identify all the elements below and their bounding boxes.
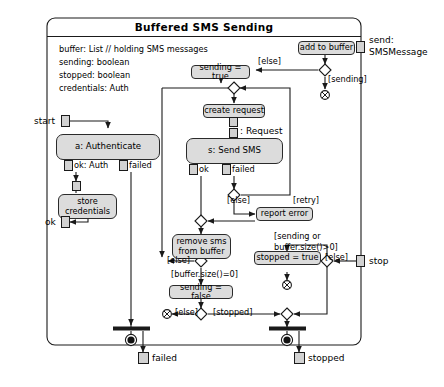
merge-stopped-path [281,308,293,320]
action-sending-true[interactable]: sending = true [191,65,250,79]
pin-create-request-out[interactable] [229,117,238,127]
pin-sendsms-failed[interactable] [222,164,231,175]
label-request: : Request [240,126,282,136]
action-add-to-buffer[interactable]: add to buffer [298,41,355,55]
activity-final-group [125,334,292,345]
pin-authenticate-failed[interactable] [119,160,128,171]
attribute-buffer: buffer: List // holding SMS messages [59,45,208,54]
label-ok-auth: ok: Auth [74,161,108,170]
guard-retry: [retry] [293,196,319,205]
action-authenticate[interactable]: a: Authenticate [56,134,160,160]
guard-stopped: [stopped] [213,308,253,317]
pin-send[interactable] [356,41,365,53]
pin-authenticate-ok[interactable] [64,160,73,171]
label-failed-auth: failed [129,161,152,170]
guard-else-loop: [else] [167,256,190,265]
pin-stopped-out[interactable] [294,352,305,364]
guard-else-final: [else] [175,308,198,317]
pin-label-send-line2: SMSMessage [369,47,428,57]
label-ok-send: ok [199,165,209,174]
merge-loop-entry [228,82,240,94]
edge-stopdecision-else-merge3 [294,267,327,314]
attribute-stopped: stopped: boolean [59,71,130,80]
attribute-buffer-comment: // holding SMS messages [106,44,208,54]
pin-label-stop: stop [369,256,388,266]
action-send-sms[interactable]: s: Send SMS [186,138,283,164]
action-stopped-true[interactable]: stopped = true [254,251,321,265]
attribute-buffer-name: buffer: List [59,44,103,54]
guard-buffer-empty: [buffer.size()=0] [171,270,238,279]
guard-else-add-buffer: [else] [258,57,281,66]
edge-start-to-authenticate [70,121,108,128]
pin-label-ok: ok [45,217,56,227]
pin-stop[interactable] [356,255,365,267]
guard-else-stop: [else] [325,253,348,262]
attribute-sending: sending: boolean [59,58,129,67]
pin-store-credentials-in[interactable] [72,181,81,191]
label-failed-send: failed [232,165,255,174]
pin-label-start: start [34,116,55,126]
pin-request-in[interactable] [229,128,238,138]
edge-ok-to-merge2 [195,176,201,221]
pin-start[interactable] [61,115,70,127]
pin-label-failed: failed [152,353,177,363]
guard-sending-or-buffer-line2: buffer.size()>0] [274,243,338,252]
action-create-request[interactable]: create request [203,104,265,118]
pin-label-stopped: stopped [308,353,344,363]
guard-else-report-error: [else] [227,196,250,205]
merge-after-error [195,215,207,227]
pin-label-send-line1: send: [369,35,394,45]
pin-failed-out[interactable] [138,352,149,364]
action-sending-false[interactable]: sending = false [169,285,233,299]
page-title: Buffered SMS Sending [47,21,361,33]
pin-ok[interactable] [61,216,70,228]
guard-sending: [sending] [328,75,367,84]
attribute-credentials: credentials: Auth [59,84,129,93]
action-report-error[interactable]: report error [256,207,313,221]
guard-sending-or-buffer-line1: [sending or [274,232,321,241]
activity-diagram-canvas: Buffered SMS Sending buffer: List // hol… [0,0,444,387]
pin-sendsms-ok[interactable] [189,164,198,175]
